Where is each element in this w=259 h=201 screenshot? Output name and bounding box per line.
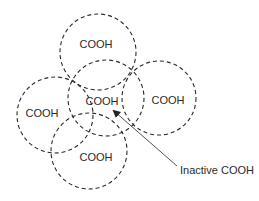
circle-top xyxy=(60,14,136,90)
annotation-label: Inactive COOH xyxy=(180,164,254,176)
annotation-arrow xyxy=(114,111,177,166)
label-top-cooh: COOH xyxy=(80,38,113,50)
label-right-cooh: COOH xyxy=(152,94,185,106)
label-bottom-cooh: COOH xyxy=(80,151,113,163)
label-center-cooh: COOH xyxy=(86,95,119,107)
label-left-cooh: COOH xyxy=(26,107,59,119)
cooh-overlap-diagram: COOH COOH COOH COOH COOH Inactive COOH xyxy=(0,0,259,201)
